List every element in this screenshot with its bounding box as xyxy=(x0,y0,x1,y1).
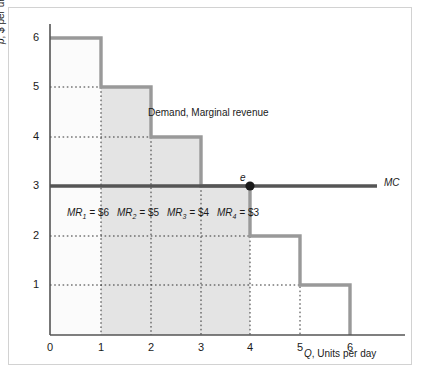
y-axis-title-symbol: p xyxy=(0,38,6,44)
demand-mr-curve-label: Demand, Marginal revenue xyxy=(148,107,269,118)
y-tick-2: 2 xyxy=(29,229,43,241)
mr-value-4: $3 xyxy=(248,207,259,218)
y-axis-title-text: , $ per unit xyxy=(0,0,6,38)
x-tick-2: 2 xyxy=(144,341,158,353)
mr-annotation-3: MR3 = $4 xyxy=(167,207,209,220)
x-tick-0: 0 xyxy=(43,341,57,353)
y-axis-title: p, $ per unit xyxy=(0,0,6,44)
x-tick-3: 3 xyxy=(194,341,208,353)
economics-step-demand-chart xyxy=(9,8,413,366)
y-tick-1: 1 xyxy=(29,278,43,290)
mr-eq-2: = xyxy=(136,207,147,218)
figure-frame: p, $ per unit Q, Units per day 6 5 4 3 2… xyxy=(8,7,412,365)
mr-prefix-4: MR xyxy=(217,207,233,218)
x-tick-4: 4 xyxy=(243,341,257,353)
y-tick-5: 5 xyxy=(29,80,43,92)
y-tick-4: 4 xyxy=(29,130,43,142)
mr-annotation-4: MR4 = $3 xyxy=(217,207,259,220)
mr-value-2: $5 xyxy=(148,207,159,218)
mr-prefix-1: MR xyxy=(67,207,83,218)
equilibrium-point-label: e xyxy=(240,172,246,183)
mr-annotation-2: MR2 = $5 xyxy=(117,207,159,220)
y-tick-3: 3 xyxy=(29,179,43,191)
x-tick-5: 5 xyxy=(293,341,307,353)
mr-eq-3: = xyxy=(186,207,197,218)
mr-value-3: $4 xyxy=(198,207,209,218)
mr-prefix-2: MR xyxy=(117,207,133,218)
x-axis-title: Q, Units per day xyxy=(304,348,376,359)
mr-eq-4: = xyxy=(236,207,247,218)
mr-eq-1: = xyxy=(86,207,97,218)
y-tick-6: 6 xyxy=(29,31,43,43)
mr-prefix-3: MR xyxy=(167,207,183,218)
x-tick-6: 6 xyxy=(343,341,357,353)
equilibrium-point-e xyxy=(245,181,254,190)
x-tick-1: 1 xyxy=(94,341,108,353)
mr-annotation-1: MR1 = $6 xyxy=(67,207,109,220)
mr-value-1: $6 xyxy=(98,207,109,218)
mc-curve-label: MC xyxy=(384,177,400,188)
